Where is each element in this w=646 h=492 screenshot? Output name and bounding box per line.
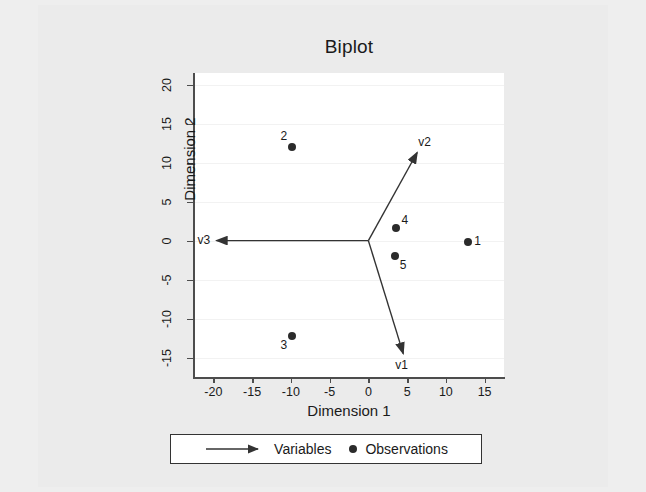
vector-arrows <box>194 73 504 377</box>
observation-label: 1 <box>474 234 481 248</box>
x-axis-tick <box>252 377 254 383</box>
variable-label: v3 <box>197 233 210 247</box>
x-axis-tick <box>213 377 215 383</box>
arrow-icon <box>204 443 266 455</box>
x-axis-tick <box>485 377 487 383</box>
legend-entry-variables: Variables <box>204 441 331 457</box>
dot-marker-icon <box>349 445 357 453</box>
observation-point <box>464 238 472 246</box>
y-axis-tick-label: -10 <box>152 312 182 326</box>
y-axis-tick-label: 10 <box>152 156 182 170</box>
y-axis-tick <box>187 280 193 282</box>
x-axis-title: Dimension 1 <box>194 402 504 419</box>
x-axis-tick-label: -5 <box>310 385 350 399</box>
observation-label: 3 <box>280 338 287 352</box>
x-axis-tick-label: 15 <box>465 385 505 399</box>
x-axis-tick <box>407 377 409 383</box>
legend-label-variables: Variables <box>274 441 331 457</box>
x-axis-tick-label: -10 <box>271 385 311 399</box>
x-axis-tick <box>368 377 370 383</box>
x-axis-tick-label: 0 <box>348 385 388 399</box>
observation-label: 5 <box>400 258 407 272</box>
x-axis-tick <box>446 377 448 383</box>
observation-label: 2 <box>280 129 287 143</box>
x-axis-tick <box>330 377 332 383</box>
x-axis-tick-label: -20 <box>193 385 233 399</box>
variable-label: v1 <box>395 358 408 372</box>
y-axis-tick-label: 20 <box>152 78 182 92</box>
x-axis-tick-label: 10 <box>426 385 466 399</box>
chart-legend: Variables Observations <box>170 434 482 464</box>
x-axis-tick-label: 5 <box>387 385 427 399</box>
plot-area: 12345 v1v2v3 <box>194 73 504 377</box>
legend-label-observations: Observations <box>365 441 447 457</box>
observation-point <box>288 332 296 340</box>
y-axis-tick-label: -5 <box>152 273 182 287</box>
y-axis-tick <box>187 241 193 243</box>
figure-canvas: Biplot 12345 v1v2v3 -15-10-505101520 Dim… <box>0 0 646 492</box>
observation-point <box>288 143 296 151</box>
y-axis-tick-label: 0 <box>152 234 182 248</box>
observation-point <box>392 224 400 232</box>
x-axis-tick-label: -15 <box>232 385 272 399</box>
y-axis-tick-label: 15 <box>152 117 182 131</box>
x-axis-tick <box>291 377 293 383</box>
legend-entry-observations: Observations <box>349 441 447 457</box>
y-axis-tick <box>187 319 193 321</box>
chart-title: Biplot <box>194 36 504 58</box>
y-axis-title: Dimension 2 <box>181 79 199 239</box>
observation-point <box>391 252 399 260</box>
observation-label: 4 <box>402 213 409 227</box>
y-axis-tick-label: -15 <box>152 351 182 365</box>
variable-label: v2 <box>418 135 431 149</box>
x-axis-line <box>193 377 505 379</box>
y-axis-tick-label: 5 <box>152 195 182 209</box>
y-axis-tick <box>187 358 193 360</box>
